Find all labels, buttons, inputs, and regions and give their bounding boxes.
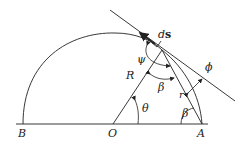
label-ds-d: d <box>158 28 165 41</box>
label-B: B <box>18 128 26 139</box>
label-ds: ds <box>158 29 171 40</box>
label-ds-s: s <box>165 28 171 41</box>
diagram: B O A R r θ β β ψ ϕ ds <box>0 0 247 144</box>
theta-arc <box>135 100 138 124</box>
label-beta-mid: β <box>158 82 164 93</box>
tangent-line <box>110 10 235 101</box>
label-beta-A: β <box>182 108 188 119</box>
label-O: O <box>108 128 117 139</box>
label-A: A <box>197 128 205 139</box>
label-phi: ϕ <box>205 62 213 73</box>
label-psi: ψ <box>137 54 146 65</box>
beta-arc-mid <box>150 74 174 79</box>
label-r: r <box>179 90 184 100</box>
phi-arc <box>188 79 202 93</box>
label-R: R <box>126 70 134 81</box>
label-theta: θ <box>142 103 149 114</box>
ds-arrow <box>140 33 155 44</box>
